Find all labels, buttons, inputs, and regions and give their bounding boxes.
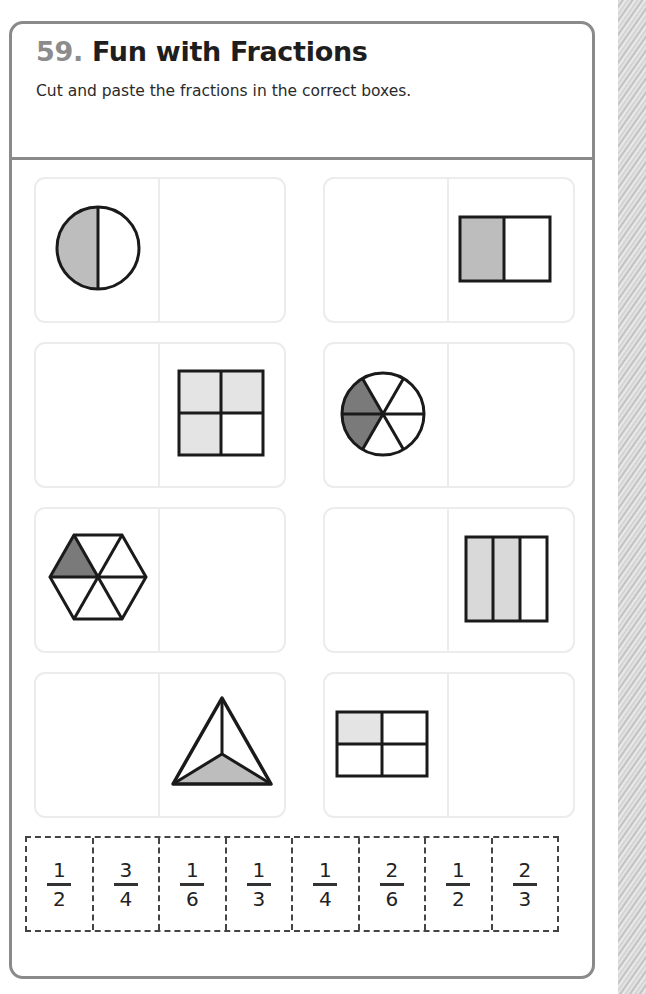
fraction-card-1 xyxy=(34,177,286,323)
numerator: 2 xyxy=(385,859,398,881)
two-thirds-shaded-rectangle-icon xyxy=(464,535,550,625)
fraction-card-4 xyxy=(323,342,575,488)
quarter-shaded-rectangle-icon xyxy=(335,710,431,780)
page-title: 59. Fun with Fractions xyxy=(36,36,368,67)
denominator: 3 xyxy=(518,888,531,910)
fraction-bar xyxy=(247,883,271,886)
numerator: 1 xyxy=(319,859,332,881)
numerator: 1 xyxy=(252,859,265,881)
numerator: 2 xyxy=(518,859,531,881)
fraction-cutout[interactable]: 1 2 xyxy=(426,838,493,930)
shape-cell xyxy=(36,179,158,321)
fraction-cutout[interactable]: 3 4 xyxy=(94,838,161,930)
shape-cell xyxy=(449,509,573,651)
fraction-cutout[interactable]: 1 3 xyxy=(227,838,294,930)
fraction-bar xyxy=(114,883,138,886)
triangle-thirds-icon xyxy=(170,694,274,790)
hexagon-sixths-icon xyxy=(48,533,148,623)
fraction-cutout[interactable]: 1 2 xyxy=(27,838,94,930)
worksheet-title: Fun with Fractions xyxy=(92,36,368,67)
shape-cell xyxy=(36,509,158,651)
numerator: 1 xyxy=(53,859,66,881)
answer-box[interactable] xyxy=(160,179,284,321)
decorative-side-strip xyxy=(618,0,646,994)
fraction-bar xyxy=(47,883,71,886)
denominator: 6 xyxy=(385,888,398,910)
denominator: 4 xyxy=(119,888,132,910)
fraction-cutout[interactable]: 1 4 xyxy=(293,838,360,930)
answer-box[interactable] xyxy=(325,179,447,321)
answer-box[interactable] xyxy=(449,674,573,816)
half-shaded-circle-icon xyxy=(53,203,143,293)
half-shaded-rectangle-icon xyxy=(458,215,554,283)
denominator: 3 xyxy=(252,888,265,910)
fraction-card-7 xyxy=(34,672,286,818)
three-quarters-shaded-square-icon xyxy=(177,369,267,459)
answer-box[interactable] xyxy=(36,674,158,816)
fraction-bar xyxy=(180,883,204,886)
answer-box[interactable] xyxy=(36,344,158,486)
shape-cell xyxy=(325,674,447,816)
fraction-card-5 xyxy=(34,507,286,653)
instructions: Cut and paste the fractions in the corre… xyxy=(36,82,411,100)
denominator: 2 xyxy=(452,888,465,910)
numerator: 1 xyxy=(452,859,465,881)
numerator: 3 xyxy=(119,859,132,881)
fraction-bar xyxy=(380,883,404,886)
fraction-card-3 xyxy=(34,342,286,488)
fraction-cutout-strip: 1 2 3 4 1 6 1 3 1 4 2 6 1 2 2 3 xyxy=(25,836,559,932)
numerator: 1 xyxy=(186,859,199,881)
denominator: 2 xyxy=(53,888,66,910)
shape-cell xyxy=(449,179,573,321)
fraction-card-2 xyxy=(323,177,575,323)
worksheet-header: 59. Fun with Fractions Cut and paste the… xyxy=(12,24,592,160)
fraction-cutout[interactable]: 1 6 xyxy=(160,838,227,930)
shape-cell xyxy=(160,344,284,486)
answer-box[interactable] xyxy=(325,509,447,651)
fraction-cutout[interactable]: 2 3 xyxy=(493,838,558,930)
fraction-bar xyxy=(313,883,337,886)
sixths-circle-icon xyxy=(338,369,428,459)
fraction-bar xyxy=(513,883,537,886)
worksheet-number: 59. xyxy=(36,36,83,67)
shape-cell xyxy=(160,674,284,816)
shape-cell xyxy=(325,344,447,486)
denominator: 4 xyxy=(319,888,332,910)
answer-box[interactable] xyxy=(160,509,284,651)
answer-box[interactable] xyxy=(449,344,573,486)
fraction-cutout[interactable]: 2 6 xyxy=(360,838,427,930)
fraction-bar xyxy=(446,883,470,886)
fraction-card-8 xyxy=(323,672,575,818)
fraction-card-6 xyxy=(323,507,575,653)
denominator: 6 xyxy=(186,888,199,910)
